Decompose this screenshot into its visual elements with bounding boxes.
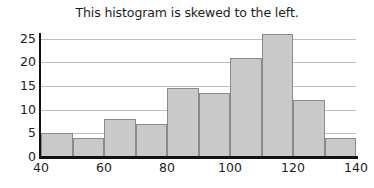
y-axis-tick-label: 25 [14,33,36,45]
chart-title: This histogram is skewed to the left. [0,5,374,20]
histogram-bar [262,34,294,157]
histogram-bar [230,58,262,157]
y-axis-tick-label: 5 [14,127,36,139]
x-axis-line [39,156,358,159]
x-axis-tick-label: 40 [24,161,58,175]
histogram-bar [293,100,325,157]
histogram-bar [325,138,357,157]
y-axis-tick-label: 15 [14,80,36,92]
y-axis-tick-label: 10 [14,104,36,116]
plot-area [41,34,356,157]
gridline [41,62,356,63]
y-axis-tick-label: 20 [14,56,36,68]
x-axis-tick-label: 80 [150,161,184,175]
x-axis-tick-label: 140 [339,161,373,175]
y-axis-line [39,33,41,158]
histogram-bar [136,124,168,157]
x-axis-tick-label: 120 [276,161,310,175]
histogram-bar [199,93,231,157]
x-axis-tick-label: 60 [87,161,121,175]
histogram-bar [104,119,136,157]
gridline [41,39,356,40]
histogram-bar [73,138,105,157]
x-axis-tick-label: 100 [213,161,247,175]
histogram-bar [167,88,199,157]
histogram-figure: This histogram is skewed to the left. 05… [0,0,374,188]
histogram-bar [41,133,73,157]
gridline [41,86,356,87]
